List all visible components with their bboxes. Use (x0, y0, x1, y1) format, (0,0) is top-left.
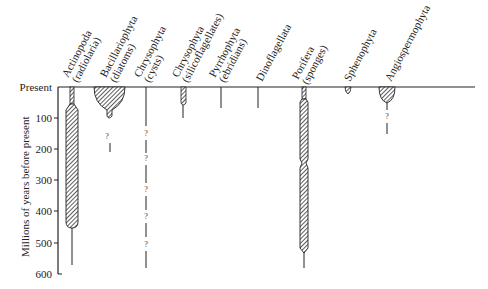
tick-600: 600 (36, 268, 53, 280)
tick-500: 500 (36, 237, 53, 249)
uncertain-mark: ? (144, 212, 148, 221)
tick-400: 400 (36, 205, 53, 217)
y-axis: Present 100 200 300 400 500 600 Millions… (19, 81, 475, 280)
tick-200: 200 (36, 143, 53, 155)
silica-organisms-range-chart: Present 100 200 300 400 500 600 Millions… (0, 0, 488, 289)
uncertain-mark: ? (385, 112, 389, 121)
range-chrysophyta-silicoflagellates (181, 87, 186, 118)
label-angiospermophyta: Angiospermophyta (382, 3, 432, 83)
range-chrysophyta-cysts: ? ? ? ? ? (144, 87, 148, 268)
uncertain-mark: ? (144, 185, 148, 194)
label-dinoflagellata: Dinoflagellata (253, 22, 293, 83)
label-actinopoda: Actinopoda(radiolaria) (59, 28, 104, 85)
range-angiospermophyta: ? (379, 87, 395, 134)
label-sphenophyta: Sphenophyta (341, 26, 379, 82)
range-porifera (300, 87, 308, 268)
uncertain-mark: ? (144, 240, 148, 249)
column-labels: Actinopoda(radiolaria) Bacillariophyta(d… (59, 3, 432, 87)
tick-present: Present (20, 81, 52, 93)
uncertain-mark: ? (144, 154, 148, 163)
uncertain-mark: ? (105, 132, 109, 141)
tick-300: 300 (36, 174, 53, 186)
uncertain-mark: ? (144, 129, 148, 138)
label-porifera: Porifera(sponges) (289, 37, 330, 86)
range-bacillariophyta: ? (94, 87, 125, 152)
range-actinopoda (66, 87, 78, 265)
y-axis-label: Millions of years before present (19, 116, 31, 257)
range-sphenophyta (345, 87, 351, 94)
tick-100: 100 (36, 112, 53, 124)
